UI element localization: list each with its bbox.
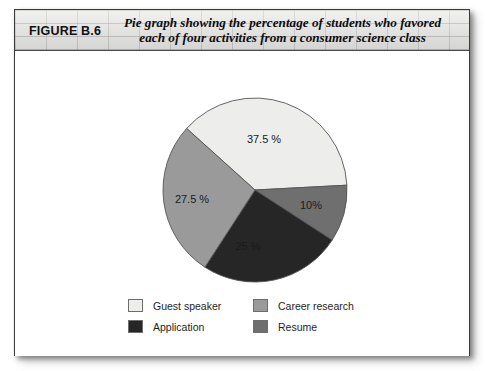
pie-chart-svg: 37.5 %10%25 %27.5 % [15, 51, 471, 301]
legend-item-resume[interactable]: Resume [253, 316, 383, 337]
figure-caption-text: Pie graph showing the percentage of stud… [114, 15, 459, 46]
pie-slice-value-application: 25 % [235, 240, 260, 252]
pie-slice-value-guest-speaker: 37.5 % [247, 133, 281, 145]
chart-area: 37.5 %10%25 %27.5 % Guest speaker Career… [15, 51, 469, 356]
legend-label-guest-speaker: Guest speaker [153, 300, 221, 312]
legend-label-resume: Resume [278, 321, 317, 333]
figure-caption-band: FIGURE B.6 Pie graph showing the percent… [15, 10, 469, 51]
figure-box: FIGURE B.6 Pie graph showing the percent… [14, 9, 470, 356]
figure-caption-line-2: each of four activities from a consumer … [114, 30, 451, 46]
legend-item-application[interactable]: Application [128, 316, 248, 337]
figure-caption-line-1: Pie graph showing the percentage of stud… [114, 15, 451, 31]
legend-label-application: Application [153, 321, 204, 333]
figure-number-label: FIGURE B.6 [29, 23, 101, 38]
legend-label-career-research: Career research [278, 300, 354, 312]
legend-swatch-career-research [253, 299, 268, 312]
chart-legend: Guest speaker Career research Applicatio… [128, 295, 403, 337]
pie-slices-group [163, 98, 347, 282]
pie-slice-value-career-research: 27.5 % [175, 193, 209, 205]
legend-item-career-research[interactable]: Career research [253, 295, 383, 316]
pie-chart: 37.5 %10%25 %27.5 % [15, 51, 471, 301]
pie-slice-value-resume: 10% [300, 199, 322, 211]
legend-swatch-guest-speaker [128, 299, 143, 312]
legend-swatch-resume [253, 320, 268, 333]
legend-item-guest-speaker[interactable]: Guest speaker [128, 295, 248, 316]
legend-swatch-application [128, 320, 143, 333]
